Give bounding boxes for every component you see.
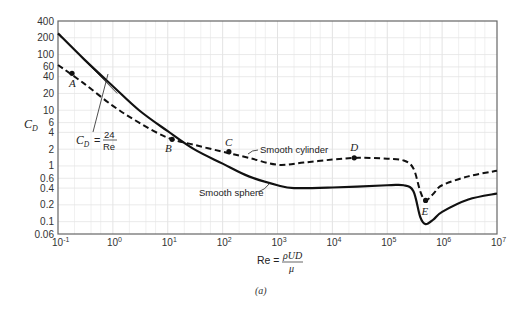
x-tick-label: 101: [162, 236, 177, 248]
point-label-e: E: [421, 205, 429, 217]
point-label-c: C: [225, 136, 233, 148]
point-marker-c: [226, 149, 231, 154]
drag-coefficient-chart: 4002001006040201064210.60.40.20.10.06 10…: [0, 0, 526, 312]
y-tick-label: 10: [43, 105, 55, 116]
svg-text:24: 24: [104, 129, 115, 140]
point-label-b: B: [165, 142, 172, 154]
x-axis-label: Re = ρUD μ: [257, 250, 303, 274]
point-marker-a: [69, 71, 74, 76]
x-tick-label: 104: [326, 236, 341, 248]
x-tick-label: 107: [491, 236, 506, 248]
y-axis-label: CD: [24, 117, 38, 133]
svg-text:ρUD: ρUD: [282, 250, 303, 261]
y-tick-label: 0.4: [40, 183, 54, 194]
cylinder-leader-line: [248, 150, 258, 154]
point-marker-e: [423, 198, 428, 203]
x-tick-label: 105: [381, 236, 396, 248]
y-tick-label: 40: [43, 71, 55, 82]
y-tick-label: 2: [48, 144, 54, 155]
y-tick-label: 400: [37, 16, 54, 27]
x-tick-label: 102: [217, 236, 232, 248]
y-tick-label: 20: [43, 88, 55, 99]
svg-text:Re =: Re =: [257, 254, 279, 266]
y-tick-label: 200: [37, 32, 54, 43]
svg-text:Re: Re: [103, 141, 115, 152]
x-axis-ticks: 10-1100101102103104105106107: [52, 236, 506, 248]
y-tick-label: 1: [48, 160, 54, 171]
grid-lines: [58, 21, 497, 234]
x-tick-label: 10-1: [52, 236, 69, 248]
x-tick-label: 100: [107, 236, 122, 248]
cylinder-label: Smooth cylinder: [260, 144, 328, 155]
y-tick-label: 4: [48, 127, 54, 138]
x-tick-label: 103: [272, 236, 287, 248]
y-tick-label: 100: [37, 49, 54, 60]
svg-text:=: =: [94, 134, 100, 146]
y-tick-label: 0.1: [40, 216, 54, 227]
point-label-d: D: [349, 141, 358, 153]
sphere-label: Smooth sphere: [199, 187, 263, 198]
figure-caption: (a): [255, 285, 267, 297]
point-marker-b: [169, 137, 174, 142]
y-tick-label: 0.2: [40, 199, 54, 210]
svg-text:μ: μ: [288, 263, 294, 274]
point-marker-d: [352, 155, 357, 160]
x-tick-label: 106: [436, 236, 451, 248]
point-label-a: A: [68, 77, 76, 89]
svg-text:CD: CD: [76, 134, 90, 149]
